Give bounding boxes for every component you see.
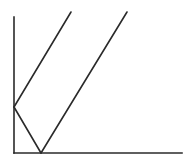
- line-segments: [14, 12, 127, 153]
- reflection-diagram: [0, 0, 189, 160]
- left-diagonal-up-line: [14, 12, 71, 107]
- right-diagonal-up-line: [41, 12, 127, 153]
- reflection-down-line: [14, 107, 41, 153]
